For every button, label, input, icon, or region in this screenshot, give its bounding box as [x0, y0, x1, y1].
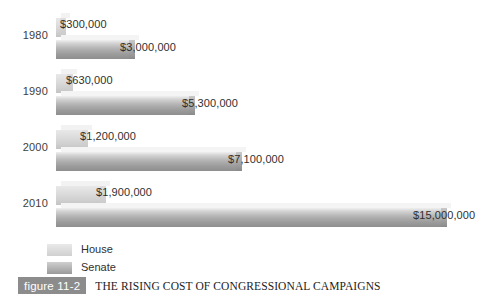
- bar-senate-1990: [56, 96, 194, 115]
- value-label-house-2010: $1,900,000: [96, 186, 152, 198]
- bar-senate-2010: [56, 208, 446, 227]
- bar-chart: 1980 $300,000 $3,000,000 1990 $630,000 $…: [0, 0, 491, 240]
- axis-label-year-2000: 2000: [0, 141, 48, 153]
- figure-caption-title: THE RISING COST OF CONGRESSIONAL CAMPAIG…: [86, 277, 380, 294]
- value-label-house-1980: $300,000: [60, 18, 107, 30]
- value-label-house-2000: $1,200,000: [80, 130, 136, 142]
- axis-label-year-1990: 1990: [0, 85, 48, 97]
- bar-front-face: [56, 152, 241, 171]
- value-label-senate-1980: $3,000,000: [120, 41, 176, 53]
- legend-swatch-senate-icon: [47, 262, 72, 274]
- axis-label-year-2010: 2010: [0, 197, 48, 209]
- chart-group-2010: 2010 $1,900,000 $15,000,000: [0, 182, 491, 230]
- value-label-senate-1990: $5,300,000: [182, 97, 238, 109]
- axis-label-year-1980: 1980: [0, 29, 48, 41]
- legend-label-house: House: [81, 243, 113, 255]
- chart-group-2000: 2000 $1,200,000 $7,100,000: [0, 126, 491, 174]
- value-label-senate-2010: $15,000,000: [413, 209, 475, 221]
- figure-caption: figure 11-2 THE RISING COST OF CONGRESSI…: [18, 277, 381, 294]
- legend-swatch-house-icon: [47, 244, 72, 256]
- value-label-house-1990: $630,000: [66, 74, 113, 86]
- bar-front-face: [56, 96, 194, 115]
- chart-group-1990: 1990 $630,000 $5,300,000: [0, 70, 491, 118]
- bar-senate-2000: [56, 152, 241, 171]
- value-label-senate-2000: $7,100,000: [228, 153, 284, 165]
- legend-label-senate: Senate: [81, 261, 116, 273]
- figure-number-badge: figure 11-2: [18, 277, 86, 294]
- chart-group-1980: 1980 $300,000 $3,000,000: [0, 14, 491, 62]
- bar-front-face: [56, 208, 446, 227]
